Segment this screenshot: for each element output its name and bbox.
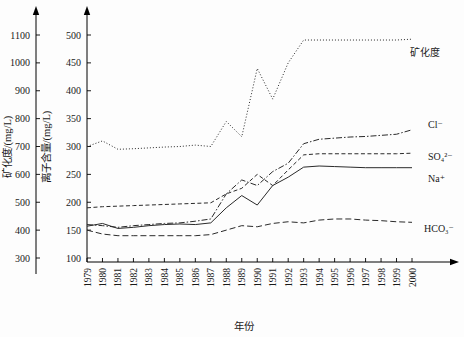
svg-text:1989: 1989 [237,268,247,287]
svg-text:1991: 1991 [268,268,278,287]
svg-text:200: 200 [66,197,81,208]
svg-text:1980: 1980 [98,268,108,287]
svg-text:1988: 1988 [222,268,232,287]
axes-group: 3004005006007008009001000110010015020025… [10,6,459,287]
series-label-Na+: Na⁺ [428,173,445,184]
svg-text:400: 400 [15,225,30,236]
svg-text:1984: 1984 [160,268,170,287]
svg-text:900: 900 [15,85,30,96]
svg-text:1993: 1993 [299,268,309,287]
svg-text:1997: 1997 [361,268,371,287]
svg-text:1985: 1985 [175,268,185,287]
svg-text:1987: 1987 [206,268,216,287]
svg-text:1996: 1996 [346,268,356,287]
svg-text:300: 300 [66,141,81,152]
chart-canvas: 3004005006007008009001000110010015020025… [0,0,464,337]
chart-figure: 3004005006007008009001000110010015020025… [0,0,464,337]
svg-text:年份: 年份 [234,320,255,332]
svg-text:300: 300 [15,253,30,264]
series-line-矿化度 [87,39,412,149]
svg-text:1100: 1100 [10,30,30,41]
svg-text:1000: 1000 [10,57,30,68]
series-labels-group: 矿化度Cl⁻SO₄²⁻Na⁺HCO₃⁻ [410,46,454,234]
series-label-HCO3-: HCO₃⁻ [424,223,454,234]
svg-text:2000: 2000 [408,268,418,287]
series-label-矿化度: 矿化度 [410,46,440,58]
svg-text:700: 700 [15,141,30,152]
series-line-Cl- [87,130,412,228]
svg-text:1999: 1999 [392,268,402,287]
svg-text:150: 150 [66,225,81,236]
svg-text:1990: 1990 [253,268,263,287]
axis-titles-group: 矿化度/(mg/L)离子含量/(mg/L)年份 [1,110,255,332]
series-line-Na+ [87,166,412,228]
svg-text:500: 500 [66,30,81,41]
svg-text:矿化度/(mg/L): 矿化度/(mg/L) [1,115,14,178]
svg-text:500: 500 [15,197,30,208]
svg-text:1998: 1998 [377,268,387,287]
svg-text:600: 600 [15,169,30,180]
series-line-SO4(2-) [87,153,412,208]
svg-text:1981: 1981 [113,268,123,287]
svg-text:100: 100 [66,253,81,264]
svg-text:1983: 1983 [144,268,154,287]
svg-text:1982: 1982 [129,268,139,287]
svg-text:400: 400 [66,85,81,96]
svg-text:1995: 1995 [330,268,340,287]
svg-text:450: 450 [66,57,81,68]
svg-text:350: 350 [66,113,81,124]
series-group [87,39,412,236]
svg-text:1986: 1986 [191,268,201,287]
series-label-SO4(2-): SO₄²⁻ [428,151,453,162]
svg-text:800: 800 [15,113,30,124]
series-label-Cl-: Cl⁻ [428,119,443,130]
svg-text:1979: 1979 [83,268,93,287]
svg-text:1994: 1994 [315,268,325,287]
svg-text:离子含量/(mg/L): 离子含量/(mg/L) [40,110,53,183]
svg-text:250: 250 [66,169,81,180]
svg-text:1992: 1992 [284,268,294,287]
